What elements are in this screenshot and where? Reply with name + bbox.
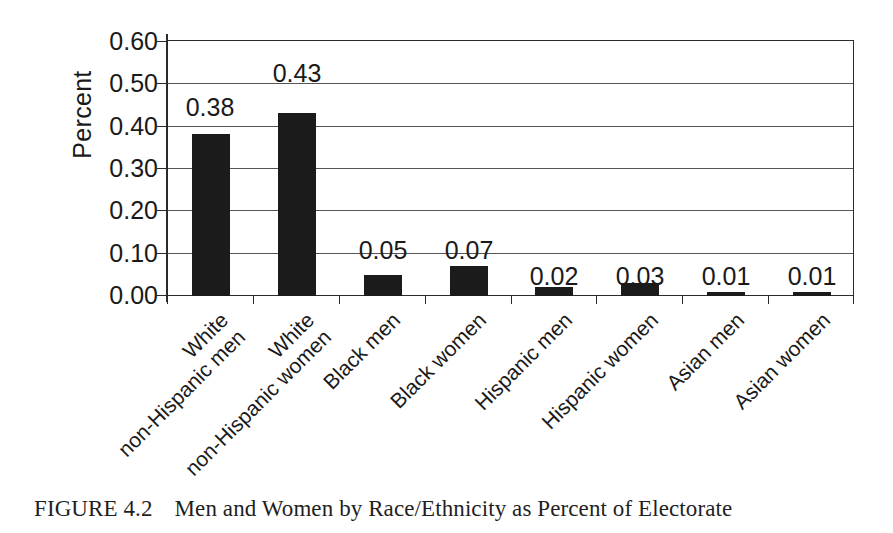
x-label-black-women: Black women — [321, 308, 490, 477]
bar-value-label: 0.07 — [424, 238, 514, 263]
x-label-hispanic-men: Hispanic men — [407, 308, 576, 477]
figure-caption-text: Men and Women by Race/Ethnicity as Perce… — [175, 496, 733, 521]
bar-black-men[interactable] — [364, 275, 402, 296]
x-label-line1: Black men — [319, 308, 405, 394]
bar-value-label: 0.05 — [338, 238, 428, 263]
y-tick-label: 0.20 — [60, 198, 158, 223]
y-axis-tick-labels: 0.60 0.50 0.40 0.30 0.20 0.10 0.00 — [60, 41, 158, 295]
bar-value-label: 0.03 — [595, 264, 685, 289]
figure-caption-label: FIGURE 4.2 — [34, 496, 153, 521]
bars-layer: 0.38 0.43 0.05 0.07 0.02 0.03 0.01 0.01 — [167, 40, 854, 296]
y-tick-label: 0.30 — [60, 156, 158, 181]
bar-value-label: 0.43 — [252, 61, 342, 86]
x-axis-category-labels: White non-Hispanic men White non-Hispani… — [0, 300, 893, 450]
y-tick-label: 0.60 — [60, 29, 158, 54]
figure-caption: FIGURE 4.2Men and Women by Race/Ethnicit… — [34, 496, 732, 522]
figure-container: Percent 0.60 0.50 0.40 0.30 0.20 0.10 0.… — [0, 0, 893, 533]
bar-value-label: 0.02 — [509, 264, 599, 289]
y-tick-label: 0.40 — [60, 113, 158, 138]
x-label-line1: Asian men — [662, 308, 748, 394]
x-label-asian-men: Asian men — [579, 308, 748, 477]
x-label-asian-women: Asian women — [665, 308, 834, 477]
bar-white-non-hispanic-women[interactable] — [278, 113, 316, 296]
y-tick-label: 0.10 — [60, 240, 158, 265]
y-tick-label: 0.50 — [60, 71, 158, 96]
bar-black-women[interactable] — [450, 266, 488, 296]
x-label-hispanic-women: Hispanic women — [493, 308, 662, 477]
bar-white-non-hispanic-men[interactable] — [192, 134, 230, 296]
bar-value-label: 0.01 — [767, 264, 857, 289]
bar-value-label: 0.01 — [681, 264, 771, 289]
bar-value-label: 0.38 — [165, 95, 255, 120]
